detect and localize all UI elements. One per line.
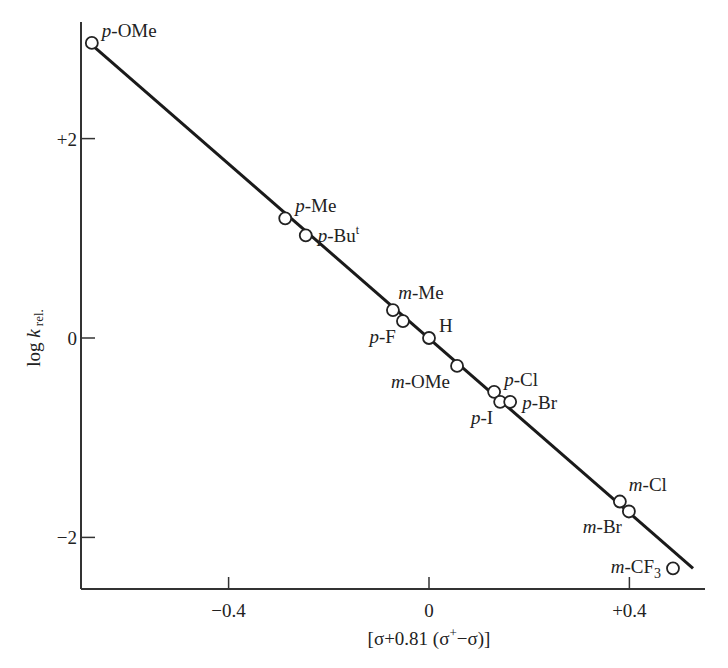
x-tick-label: −0.4	[211, 600, 246, 621]
point-label: m-Me	[398, 282, 443, 303]
y-tick-label: −2	[57, 527, 77, 548]
data-point	[300, 229, 312, 241]
point-label: m-Br	[583, 516, 623, 537]
data-point	[667, 562, 679, 574]
x-axis-title: [σ+0.81 (σ+−σ)]	[368, 625, 491, 650]
point-label: p-Cl	[502, 369, 538, 390]
point-label: m-Cl	[629, 474, 667, 495]
ticks: −0.40+0.4+20−2	[57, 129, 647, 621]
data-point	[387, 304, 399, 316]
y-axis-title: log k rel.	[23, 309, 46, 367]
data-point	[451, 360, 463, 372]
point-label: p-But	[316, 223, 360, 246]
data-point	[623, 505, 635, 517]
data-point	[614, 496, 626, 508]
point-label: m-OMe	[391, 371, 450, 392]
point-label: p-Br	[520, 392, 558, 413]
x-tick-label: +0.4	[612, 600, 647, 621]
hammett-plot: −0.40+0.4+20−2 p-OMep-Mep-Butm-Mep-FHm-O…	[0, 0, 728, 668]
point-label: m-CF3	[611, 556, 661, 581]
data-point	[504, 396, 516, 408]
point-label: p-Me	[293, 195, 336, 216]
point-label: H	[439, 315, 453, 336]
x-tick-label: 0	[424, 600, 434, 621]
point-label: p-F	[368, 326, 396, 347]
data-point	[279, 212, 291, 224]
y-tick-label: +2	[57, 129, 77, 150]
data-point	[397, 315, 409, 327]
point-label: p-OMe	[100, 20, 157, 41]
data-point	[423, 332, 435, 344]
point-label: p-I	[469, 407, 493, 428]
y-tick-label: 0	[68, 328, 78, 349]
data-point	[86, 37, 98, 49]
